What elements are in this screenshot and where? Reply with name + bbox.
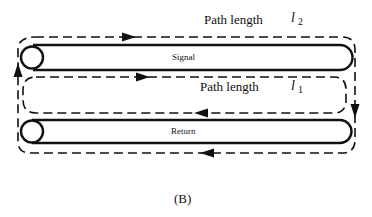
- arrow-right-icon: [136, 73, 150, 82]
- inner-path-label: Path length: [200, 80, 259, 93]
- arrow-right-icon: [122, 33, 136, 42]
- current-path-diagram: [0, 0, 372, 217]
- outer-path-label: Path length: [204, 13, 263, 26]
- arrow-left-icon: [200, 149, 214, 158]
- return-label: Return: [171, 127, 196, 136]
- outer-path-variable: l2: [291, 11, 303, 27]
- arrow-up-icon: [14, 63, 23, 77]
- figure-caption: (B): [174, 192, 191, 205]
- inner-path-variable: l1: [291, 79, 303, 95]
- signal-label: Signal: [172, 53, 195, 62]
- arrow-down-icon: [351, 104, 360, 118]
- arrow-left-icon: [194, 109, 208, 118]
